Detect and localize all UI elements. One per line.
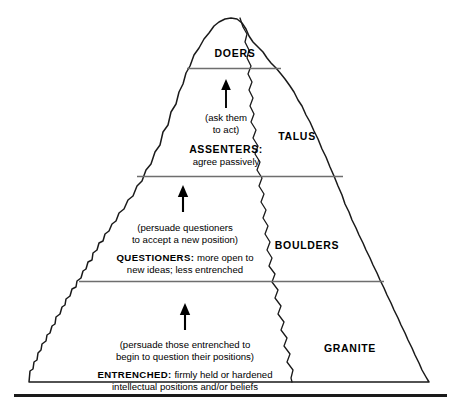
- tier-label-questioners: QUESTIONERS:: [116, 252, 194, 263]
- tier-label-entrenched-row: ENTRENCHED: firmly held or hardened: [97, 369, 272, 381]
- tier-description-entrenched-line2: intellectual positions and/or beliefs: [97, 381, 272, 393]
- geology-label-boulders: BOULDERS: [275, 239, 340, 252]
- tier-label-questioners-row: QUESTIONERS: more open to: [116, 252, 253, 264]
- tier-block-assenters: ASSENTERS: agree passively: [189, 143, 263, 168]
- tier-note-entrenched-line1: (persuade those entrenched to: [116, 339, 254, 351]
- tier-description-entrenched-line1: firmly held or hardened: [172, 369, 273, 380]
- tier-note-assenters-line2: to act): [205, 124, 247, 136]
- tier-block-entrenched: ENTRENCHED: firmly held or hardened inte…: [97, 369, 272, 392]
- tier-block-questioners: QUESTIONERS: more open to new ideas; les…: [116, 252, 253, 275]
- tier-note-questioners-line2: to accept a new position): [132, 234, 238, 246]
- tier-label-doers: DOERS: [215, 47, 256, 60]
- geology-label-granite: GRANITE: [324, 342, 376, 355]
- tier-description-questioners-line1: more open to: [194, 252, 253, 263]
- tier-note-questioners-line1: (persuade questioners: [132, 222, 238, 234]
- tier-note-entrenched: (persuade those entrenched to begin to q…: [116, 339, 254, 362]
- tier-description-questioners-line2: new ideas; less entrenched: [116, 264, 253, 276]
- diagram-canvas: DOERS (ask them to act) ASSENTERS: agree…: [0, 0, 461, 409]
- tier-note-assenters-line1: (ask them: [205, 112, 247, 124]
- tier-note-assenters: (ask them to act): [205, 112, 247, 135]
- tier-label-assenters: ASSENTERS:: [189, 143, 263, 156]
- geology-label-talus: TALUS: [278, 130, 316, 143]
- tier-description-assenters: agree passively: [189, 156, 263, 168]
- mountain-outline: [29, 18, 429, 382]
- tier-note-questioners: (persuade questioners to accept a new po…: [132, 222, 238, 245]
- tier-note-entrenched-line2: begin to question their positions): [116, 351, 254, 363]
- tier-label-entrenched: ENTRENCHED:: [97, 369, 171, 380]
